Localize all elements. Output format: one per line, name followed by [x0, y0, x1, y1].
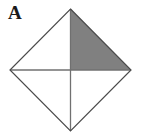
figure-label-a: A — [8, 3, 22, 23]
geometry-figure-panel: A — [0, 0, 141, 139]
